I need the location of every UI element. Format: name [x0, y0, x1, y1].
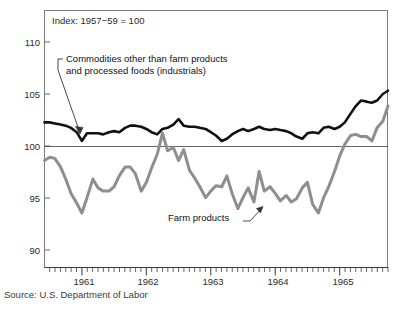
- x-tick-label-1963: 1963: [202, 276, 223, 287]
- index-base-note: Index: 1957−59 = 100: [52, 15, 144, 26]
- y-tick-label-95: 95: [29, 193, 40, 204]
- x-tick-label-1962: 1962: [137, 276, 158, 287]
- chart-figure: 110 105 100 95 90 1961 1962 1963 1964 19…: [0, 0, 407, 312]
- y-tick-label-110: 110: [25, 37, 40, 48]
- x-tick-label-1965: 1965: [332, 276, 353, 287]
- source-note: Source: U.S. Department of Labor: [4, 289, 148, 300]
- y-tick-label-105: 105: [24, 89, 40, 100]
- chart-background: [0, 0, 407, 312]
- y-tick-label-100: 100: [24, 141, 40, 152]
- x-tick-label-1964: 1964: [267, 276, 288, 287]
- price-index-line-chart: 110 105 100 95 90 1961 1962 1963 1964 19…: [0, 0, 407, 312]
- x-tick-label-1961: 1961: [73, 276, 94, 287]
- annotation-farm-label: Farm products: [168, 212, 229, 223]
- annotation-industrials-line1: Commodities other than farm products: [66, 53, 228, 64]
- y-tick-label-90: 90: [29, 245, 40, 256]
- annotation-industrials-line2: and processed foods (industrials): [66, 65, 206, 76]
